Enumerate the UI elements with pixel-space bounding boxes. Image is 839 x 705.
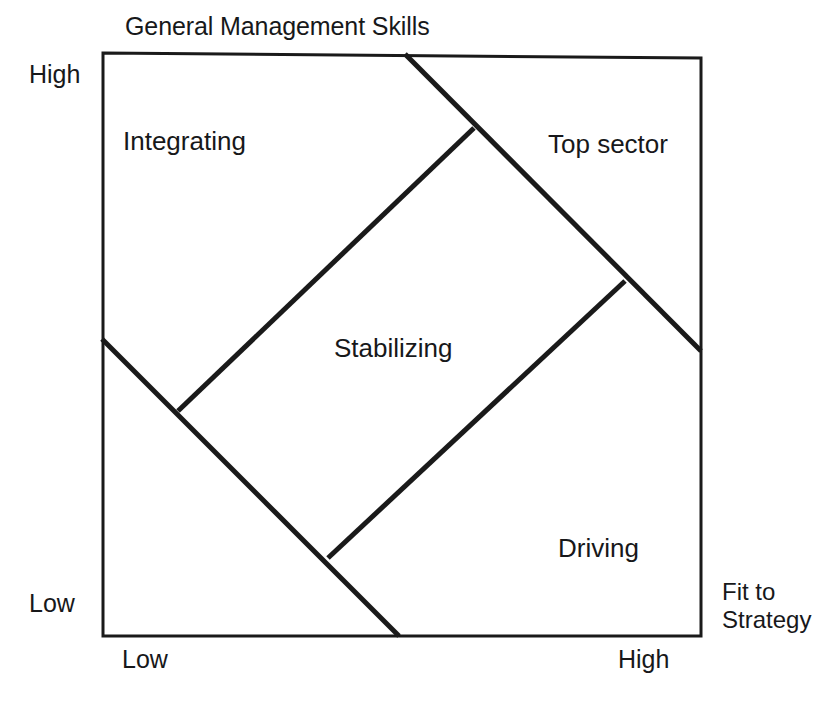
diamond-edge-upper-left xyxy=(178,128,474,411)
region-label-integrating: Integrating xyxy=(123,126,246,157)
diagonal-bottom-left xyxy=(102,339,399,636)
region-label-top-sector: Top sector xyxy=(548,129,668,160)
y-axis-low-label: Low xyxy=(29,589,75,619)
x-axis-high-label: High xyxy=(618,645,669,675)
diamond-edge-lower-right xyxy=(328,281,625,558)
diagonal-top-right xyxy=(405,54,701,351)
y-axis-high-label: High xyxy=(29,60,80,90)
region-label-driving: Driving xyxy=(558,533,639,564)
x-axis-title-line-1: Fit to xyxy=(722,578,775,605)
page-title: General Management Skills xyxy=(125,12,430,42)
x-axis-low-label: Low xyxy=(122,645,168,675)
region-label-stabilizing: Stabilizing xyxy=(334,333,453,364)
x-axis-title: Fit to Strategy xyxy=(722,578,811,635)
matrix-diagram: General Management Skills High Low Low H… xyxy=(0,0,839,705)
x-axis-title-line-2: Strategy xyxy=(722,606,811,634)
